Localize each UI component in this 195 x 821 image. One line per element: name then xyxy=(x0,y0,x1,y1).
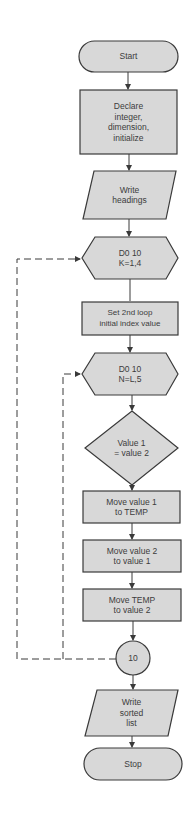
move2-label: Move value 2 to value 1 xyxy=(83,540,181,572)
do-n-label: D0 10 N=L,5 xyxy=(82,353,178,395)
declare-label: Declare integer, dimension, initialize xyxy=(80,90,177,154)
inner-loop-dashed-line xyxy=(63,374,80,659)
write-headings-label: Write headings xyxy=(83,171,176,219)
write-sorted-label: Write sorted list xyxy=(85,690,178,736)
move3-label: Move TEMP to value 2 xyxy=(83,589,181,621)
compare-label: Value 1 = value 2 xyxy=(85,411,178,485)
set-loop-label: Set 2nd loop initial index value xyxy=(82,302,178,335)
start-label: Start xyxy=(79,41,178,72)
stop-label: Stop xyxy=(84,748,182,780)
move1-label: Move value 1 to TEMP xyxy=(83,491,180,523)
do-k-label: D0 10 K=1,4 xyxy=(82,237,178,279)
connector-label: 10 xyxy=(116,641,150,675)
